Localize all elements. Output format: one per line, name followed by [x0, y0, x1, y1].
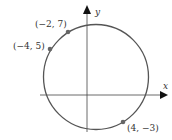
point-b-label: (−4, 5) [13, 41, 45, 51]
y-label: y [94, 7, 101, 17]
point-b [48, 47, 53, 52]
point-c-label: (4, −3) [127, 123, 159, 133]
x-label: x [163, 81, 168, 91]
y-arrow-icon [83, 5, 91, 14]
circle-diagram: x y (−2, 7) (−4, 5) (4, −3) [0, 0, 172, 140]
x-arrow-icon [160, 91, 168, 99]
point-c [121, 120, 126, 125]
point-a [66, 30, 71, 35]
point-a-label: (−2, 7) [35, 19, 67, 29]
circle [44, 25, 149, 130]
